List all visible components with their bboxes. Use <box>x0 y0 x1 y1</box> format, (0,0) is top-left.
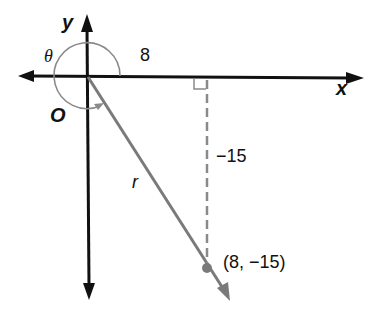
coordinate-diagram: y x θ O 8 −15 r (8, −15) <box>0 0 391 334</box>
horizontal-leg-label: 8 <box>140 45 150 65</box>
y-axis-label: y <box>61 11 74 33</box>
theta-label: θ <box>44 46 53 66</box>
vertical-leg-label: −15 <box>216 146 247 166</box>
x-axis-left-arrow-icon <box>18 70 34 82</box>
x-axis-label: x <box>335 77 348 99</box>
right-angle-marker <box>194 79 206 89</box>
arc-arrow-icon <box>94 103 104 110</box>
y-axis-down-arrow-icon <box>83 283 95 300</box>
x-axis <box>18 70 364 84</box>
y-axis-up-arrow-icon <box>81 14 93 32</box>
point-label: (8, −15) <box>223 252 286 272</box>
radius-label: r <box>132 172 139 192</box>
y-axis <box>81 14 95 300</box>
x-axis-right-arrow-icon <box>346 72 364 84</box>
origin-label: O <box>50 104 66 126</box>
point-marker <box>202 263 212 273</box>
